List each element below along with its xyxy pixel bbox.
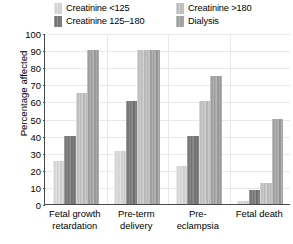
bar	[272, 119, 284, 205]
bar-group	[168, 34, 230, 204]
legend-label-series-4: Dialysis	[188, 17, 219, 26]
x-axis-category-label: Fetal death	[223, 208, 293, 220]
bar-chart-figure: Creatinine <125 Creatinine >180 Creatini…	[0, 0, 292, 244]
legend-label-series-3: Creatinine >180	[188, 4, 252, 13]
bar-group	[230, 34, 292, 204]
x-axis-category-label-line: Fetal death	[223, 208, 293, 220]
legend-swatch-icon-series-1	[54, 3, 62, 14]
y-axis-tick-label: 70	[31, 80, 41, 91]
bar	[53, 161, 65, 204]
legend-item-creatinine-lt-125: Creatinine <125	[54, 3, 176, 14]
legend-item-creatinine-125-180: Creatinine 125–180	[54, 16, 176, 27]
bar	[126, 101, 138, 204]
y-axis-tick-label: 60	[31, 97, 41, 108]
bar	[187, 136, 199, 204]
bar	[76, 93, 88, 204]
legend-item-dialysis: Dialysis	[176, 16, 292, 27]
y-axis-tick-label: 100	[25, 29, 41, 40]
bar	[249, 190, 261, 204]
bar	[64, 136, 76, 204]
plot-area: 0102030405060708090100	[44, 34, 290, 205]
y-axis-tick-mark	[43, 205, 46, 206]
bar-group	[45, 34, 107, 204]
y-axis-title: Percentage affected	[18, 19, 29, 169]
bar	[237, 201, 249, 204]
y-axis-tick-label: 50	[31, 114, 41, 125]
bar	[210, 76, 222, 204]
chart-legend: Creatinine <125 Creatinine >180 Creatini…	[54, 2, 292, 28]
y-axis-tick-label: 30	[31, 148, 41, 159]
bar	[176, 166, 188, 204]
legend-swatch-icon-series-3	[176, 3, 184, 14]
y-axis-tick-label: 80	[31, 63, 41, 74]
x-axis-labels: Fetal growthretardationPre-termdeliveryP…	[44, 208, 290, 242]
plot-area-wrapper: 0102030405060708090100	[44, 34, 290, 205]
legend-label-series-2: Creatinine 125–180	[66, 17, 144, 26]
bar	[114, 151, 126, 204]
bar-group	[107, 34, 169, 204]
bar	[149, 50, 161, 204]
legend-item-creatinine-gt-180: Creatinine >180	[176, 3, 292, 14]
group-separator	[168, 34, 169, 204]
x-axis-category-label-line: eclampsia	[161, 220, 235, 232]
y-axis-tick-label: 20	[31, 165, 41, 176]
bar	[87, 50, 99, 204]
y-axis-tick-label: 10	[31, 182, 41, 193]
y-axis-tick-label: 90	[31, 46, 41, 57]
y-axis-tick-label: 40	[31, 131, 41, 142]
group-separator	[230, 34, 231, 204]
bar	[260, 183, 272, 204]
bar	[199, 101, 211, 204]
group-separator	[107, 34, 108, 204]
legend-label-series-1: Creatinine <125	[66, 4, 130, 13]
legend-swatch-icon-series-4	[176, 16, 184, 27]
bar	[137, 50, 149, 204]
legend-swatch-icon-series-2	[54, 16, 62, 27]
